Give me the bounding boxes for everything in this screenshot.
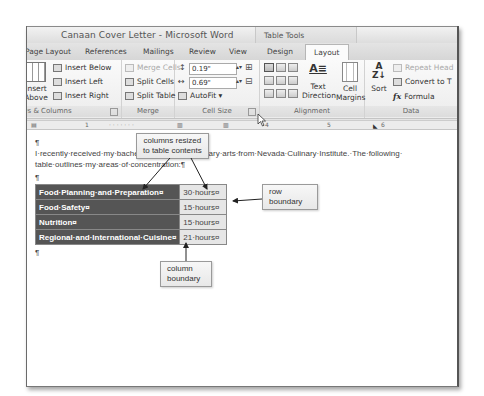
empty-paragraph-mark: ¶: [35, 138, 39, 147]
group-alignment: A≡ Text Direction Cell Margins Alignment: [260, 60, 365, 118]
insert-above-icon: [26, 62, 46, 82]
align-top-left-button[interactable]: [264, 63, 274, 72]
row-height-field[interactable]: 0.19": [189, 63, 237, 75]
alignment-group-label: Alignment: [260, 106, 364, 117]
convert-to-text-button[interactable]: Convert to T: [393, 77, 452, 86]
insert-right-button[interactable]: Insert Right: [53, 91, 109, 100]
right-indent-marker[interactable]: ◣: [373, 122, 378, 129]
formula-icon: fx: [393, 91, 401, 101]
table-tools-label: Table Tools: [264, 31, 304, 40]
align-center-left-button[interactable]: [264, 76, 274, 85]
table-cell-hours[interactable]: 21·hours¤: [180, 230, 227, 245]
sort-az-icon: AZ↓: [369, 62, 389, 80]
ribbon: Insert Above Insert Below Insert Left In…: [27, 60, 457, 119]
callout-columns-resized-line-1: columns resized: [143, 136, 202, 146]
group-merge: Merge Cells Split Cells Split Table Merg…: [122, 60, 175, 118]
column-marker-icon[interactable]: ▥: [177, 121, 183, 128]
align-center-right-button[interactable]: [288, 76, 298, 85]
align-top-right-button[interactable]: [288, 63, 298, 72]
tab-view[interactable]: View: [229, 47, 247, 56]
merge-cells-icon: [125, 64, 134, 72]
paragraph-mark-after-table: ¶: [35, 248, 39, 257]
text-direction-icon: A≡: [302, 62, 334, 76]
cell-margins-label-2: Margins: [336, 93, 364, 102]
repeat-header-icon: [393, 64, 402, 72]
rows-columns-dialog-launcher[interactable]: [110, 108, 118, 116]
table-row[interactable]: Food·Planning·and·Preparation¤ 30·hours¤: [36, 185, 227, 200]
insert-left-icon: [53, 78, 62, 86]
callout-row-boundary: row boundary: [262, 184, 318, 210]
repeat-header-rows-button[interactable]: Repeat Head: [393, 63, 453, 72]
callout-columns-resized-line-2: to table contents: [143, 146, 202, 156]
table-row[interactable]: Regional·and·International·Cuisine¤ 21·h…: [36, 230, 227, 245]
group-cell-size: ↕ 0.19" ▴▾ ⊞ ↔ 0.69" ▴▾ ⊟ AutoFit ▾ Cell…: [175, 60, 260, 118]
table-cell-area[interactable]: Regional·and·International·Cuisine¤: [36, 230, 180, 245]
callout-columns-resized: columns resized to table contents: [136, 133, 209, 159]
table-cell-hours[interactable]: 15·hours¤: [180, 215, 227, 230]
table-cell-area[interactable]: Food·Safety¤: [36, 200, 180, 215]
insert-below-label: Insert Below: [65, 63, 111, 72]
split-cells-icon: [125, 78, 134, 86]
text-direction-label-2: Direction: [302, 91, 334, 100]
group-data: AZ↓ Sort Repeat Head Convert to T fx For…: [365, 60, 457, 118]
split-cells-button[interactable]: Split Cells: [125, 77, 174, 86]
insert-above-label-2: Above: [26, 93, 49, 102]
insert-above-button[interactable]: Insert Above: [26, 62, 49, 102]
table-row[interactable]: Nutrition¤ 15·hours¤: [36, 215, 227, 230]
formula-button[interactable]: fx Formula: [393, 91, 435, 101]
insert-left-label: Insert Left: [65, 77, 103, 86]
distribute-columns-icon[interactable]: ⊟: [245, 76, 253, 86]
column-width-spinner[interactable]: ▴▾: [236, 77, 242, 84]
table-cell-hours[interactable]: 15·hours¤: [180, 200, 227, 215]
ribbon-tabs: Page Layout References Mailings Review V…: [27, 43, 457, 61]
insert-right-label: Insert Right: [65, 91, 109, 100]
distribute-rows-icon[interactable]: ⊞: [245, 62, 253, 72]
table-row[interactable]: Food·Safety¤ 15·hours¤: [36, 200, 227, 215]
document-page[interactable]: ¶ I·recently·received·my·bachelor's·degr…: [27, 130, 457, 386]
callout-row-boundary-line-2: boundary: [269, 197, 311, 207]
row-height-icon: ↕: [179, 63, 186, 72]
title-bar: Canaan Cover Letter - Microsoft Word Tab…: [27, 26, 457, 44]
table-cell-area[interactable]: Nutrition¤: [36, 215, 180, 230]
tab-references[interactable]: References: [85, 47, 127, 56]
tab-selector-icon[interactable]: ▤: [31, 121, 37, 128]
table-cell-area[interactable]: Food·Planning·and·Preparation¤: [36, 185, 180, 200]
group-rows-columns: Insert Above Insert Below Insert Left In…: [27, 60, 122, 118]
align-bottom-right-button[interactable]: [288, 89, 298, 98]
autofit-icon: [178, 92, 187, 100]
row-height-spinner[interactable]: ▴▾: [236, 63, 242, 70]
sort-button[interactable]: AZ↓ Sort: [369, 62, 389, 93]
tab-design[interactable]: Design: [267, 47, 293, 56]
column-width-field[interactable]: 0.69": [189, 77, 237, 89]
cell-size-dialog-launcher[interactable]: [248, 108, 256, 116]
ruler-mark-5: 5: [327, 121, 331, 128]
align-top-center-button[interactable]: [276, 63, 286, 72]
align-bottom-left-button[interactable]: [264, 89, 274, 98]
align-bottom-center-button[interactable]: [276, 89, 286, 98]
horizontal-ruler[interactable]: ▤ 1 · · · · · · · ▥ ▥ 4 5 ◣ 6: [27, 119, 457, 130]
insert-below-button[interactable]: Insert Below: [53, 63, 111, 72]
tab-layout[interactable]: Layout: [305, 44, 349, 60]
text-direction-label-1: Text: [302, 82, 334, 91]
cell-margins-label-1: Cell: [336, 84, 364, 93]
table-cell-hours[interactable]: 30·hours¤: [180, 185, 227, 200]
concentration-table[interactable]: Food·Planning·and·Preparation¤ 30·hours¤…: [35, 184, 227, 245]
insert-left-button[interactable]: Insert Left: [53, 77, 103, 86]
column-width-icon: ↔: [178, 77, 185, 86]
cell-size-group-label: Cell Size: [175, 106, 259, 117]
split-table-button[interactable]: Split Table: [125, 91, 175, 100]
tab-review[interactable]: Review: [189, 47, 216, 56]
merge-group-label: Merge: [122, 106, 174, 117]
paragraph-mark: ¶: [35, 173, 39, 182]
cell-margins-button[interactable]: Cell Margins: [336, 62, 364, 102]
merge-cells-button[interactable]: Merge Cells: [125, 63, 181, 72]
window-title: Canaan Cover Letter - Microsoft Word: [61, 30, 234, 40]
tab-page-layout[interactable]: Page Layout: [26, 47, 71, 56]
text-direction-button[interactable]: A≡ Text Direction: [302, 62, 334, 102]
align-center-button[interactable]: [276, 76, 286, 85]
tab-mailings[interactable]: Mailings: [143, 47, 174, 56]
column-marker-icon-2[interactable]: ▥: [223, 121, 229, 128]
ruler-mark-1: 1: [85, 121, 89, 128]
autofit-button[interactable]: AutoFit ▾: [178, 91, 222, 100]
formula-label: Formula: [404, 92, 434, 101]
